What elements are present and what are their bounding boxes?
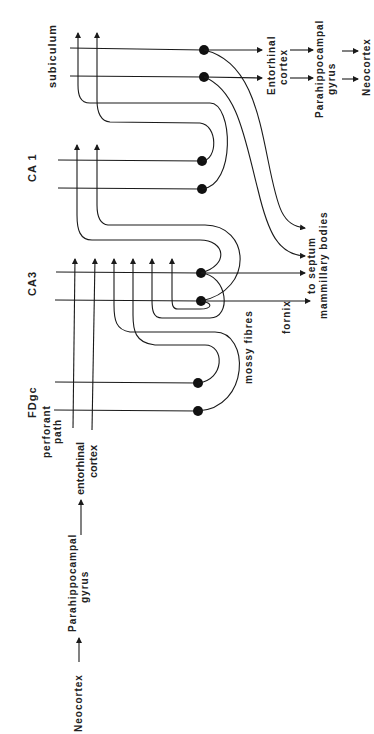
label-entorhinal-output: Entorhinal [266, 36, 277, 95]
label-entorhinal-output-2: cortex [278, 49, 289, 85]
label-fornix: fornix [281, 300, 292, 334]
label-parahippocampal-output: Parahippocampal [314, 20, 325, 118]
subiculum-dendrite-2 [70, 76, 204, 77]
label-mammillary-bodies: mammillary bodies [318, 211, 329, 319]
subiculum-to-mammillary [204, 50, 305, 228]
ca1-dendrite-1 [58, 160, 202, 161]
label-entorhinal-input: entorhinal [74, 442, 86, 495]
region-label-ca3: CA3 [26, 271, 38, 296]
label-parahippocampal-input-2: gyrus [79, 571, 90, 603]
label-neocortex-output: Neocortex [361, 38, 372, 96]
fdgc-dendrite-1 [55, 382, 198, 383]
label-entorhinal-input-2: cortex [87, 444, 99, 478]
label-to-septum: to septum [306, 237, 317, 294]
region-label-ca1: CA 1 [26, 153, 38, 182]
label-mossy-fibres: mossy fibres [243, 310, 254, 384]
ca3-dendrite-2 [55, 300, 201, 301]
label-parahippocampal-input: Parahippocampal [67, 534, 78, 632]
hippocampal-circuit-diagram: subiculum CA 1 CA3 FDgc perforant path e… [0, 0, 374, 734]
ca1-to-subiculum-2 [78, 33, 227, 189]
axon-entorhinal-1 [73, 259, 75, 428]
region-label-fdgc: FDgc [26, 387, 38, 419]
ca1-to-subiculum-1 [97, 33, 214, 161]
label-perforant-path: perforant [41, 405, 52, 458]
region-label-subiculum: subiculum [46, 24, 58, 88]
fdgc-dendrite-2 [54, 410, 198, 411]
mossy-fibre-1 [133, 259, 219, 383]
subiculum-to-entorhinal-2 [204, 77, 262, 78]
subiculum-dendrite-1 [70, 48, 204, 50]
ca3-dendrite-1 [56, 272, 201, 273]
schaffer-collateral-1 [97, 145, 240, 301]
ca1-dendrite-2 [58, 188, 202, 189]
label-parahippocampal-output-2: gyrus [326, 63, 337, 95]
label-perforant-path-2: path [52, 419, 63, 444]
axon-entorhinal-2 [92, 259, 95, 430]
label-neocortex-input: Neocortex [73, 674, 84, 732]
